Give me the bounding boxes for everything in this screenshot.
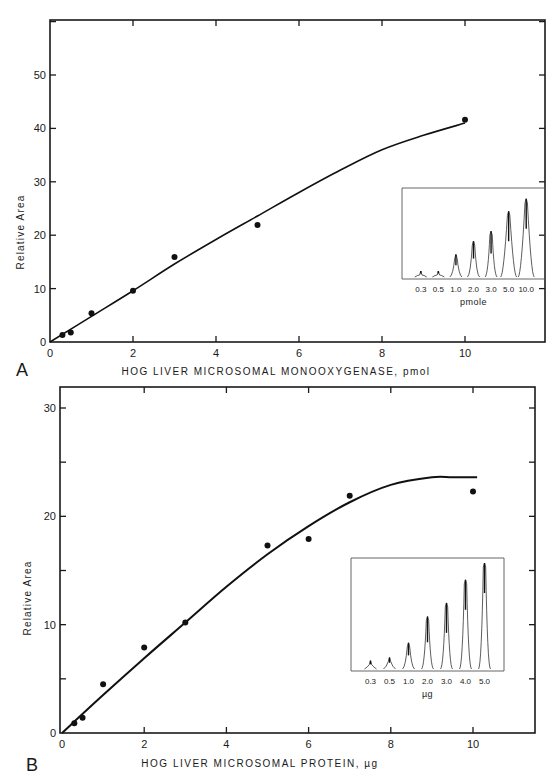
x-tick-label: 0 (47, 347, 53, 359)
x-axis-label-b: HOG LIVER MICROSOMAL PROTEIN, µg (141, 758, 378, 769)
x-tick-label: 6 (306, 738, 312, 750)
fit-curve-a (50, 123, 465, 342)
inset-peak-label: 1.0 (403, 677, 415, 686)
data-point (306, 536, 312, 542)
x-tick-label: 8 (379, 347, 385, 359)
data-point (347, 493, 353, 499)
data-point (255, 222, 261, 228)
x-tick-label: 10 (467, 738, 479, 750)
x-axis-ticks-a: 0246810 (47, 20, 471, 359)
y-tick-label: 20 (34, 229, 46, 241)
y-tick-label: 50 (34, 69, 46, 81)
data-point (470, 488, 476, 494)
chart-panel-a: 0246810 01020304050 0.30.51.02.03.05.010… (15, 20, 545, 380)
x-axis-label-a: HOG LIVER MICROSOMAL MONOOXYGENASE, pmol (121, 366, 430, 377)
y-axis-label-a: Relative Area (15, 194, 26, 269)
data-point (172, 254, 178, 260)
data-point (80, 715, 86, 721)
x-tick-label: 2 (130, 347, 136, 359)
data-point (89, 310, 95, 316)
data-point (59, 332, 65, 338)
inset-peak-label: 1.0 (450, 285, 462, 294)
x-tick-label: 0 (59, 738, 65, 750)
inset-unit-label: pmole (460, 297, 487, 307)
y-tick-label: 0 (40, 336, 46, 348)
data-points-b (71, 488, 476, 726)
data-point (100, 681, 106, 687)
inset-peak-label: 0.5 (384, 677, 396, 686)
data-point (68, 329, 74, 335)
data-point (71, 720, 77, 726)
x-tick-label: 6 (296, 347, 302, 359)
y-axis-label-b: Relative Area (22, 560, 33, 635)
x-tick-label: 4 (223, 738, 229, 750)
x-tick-label: 4 (213, 347, 219, 359)
inset-peak-label: 0.5 (433, 285, 445, 294)
inset-peak-label: 3.0 (486, 285, 498, 294)
inset-unit-label: µg (422, 689, 433, 699)
inset-chromatogram-b: 0.30.51.02.03.04.05.0µg (351, 558, 504, 699)
panel-letter-a: A (16, 360, 28, 380)
inset-peak-label: 4.0 (460, 677, 472, 686)
inset-peak-label: 2.0 (422, 677, 434, 686)
y-tick-label: 40 (34, 122, 46, 134)
data-point (265, 543, 271, 549)
panel-letter-b: B (26, 755, 38, 775)
data-points-a (59, 117, 468, 338)
y-tick-label: 30 (44, 402, 56, 414)
inset-peak-label: 3.0 (441, 677, 453, 686)
data-point (182, 620, 188, 626)
figure: 0246810 01020304050 0.30.51.02.03.05.010… (0, 0, 556, 776)
inset-peak-label: 0.3 (365, 677, 377, 686)
chart-panel-b: 0246810 0102030 0.30.51.02.03.04.05.0µg … (22, 387, 535, 775)
y-tick-label: 10 (44, 619, 56, 631)
y-tick-label: 20 (44, 510, 56, 522)
y-tick-label: 10 (34, 283, 46, 295)
x-tick-label: 10 (459, 347, 471, 359)
inset-peak-label: 5.0 (479, 677, 491, 686)
x-tick-label: 2 (141, 738, 147, 750)
fit-curve-b (62, 477, 477, 733)
inset-peak-label: 2.0 (468, 285, 480, 294)
inset-chromatogram-a: 0.30.51.02.03.05.010.0pmole (402, 188, 545, 307)
x-tick-label: 8 (388, 738, 394, 750)
y-tick-label: 30 (34, 176, 46, 188)
data-point (141, 644, 147, 650)
data-point (462, 117, 468, 123)
data-point (130, 288, 136, 294)
inset-peak-label: 5.0 (503, 285, 515, 294)
x-axis-ticks-b: 0246810 (59, 387, 479, 750)
y-axis-ticks-b: 0102030 (44, 402, 535, 739)
inset-peak-label: 0.3 (415, 285, 427, 294)
y-tick-label: 0 (50, 727, 56, 739)
inset-peak-label: 10.0 (518, 285, 534, 294)
